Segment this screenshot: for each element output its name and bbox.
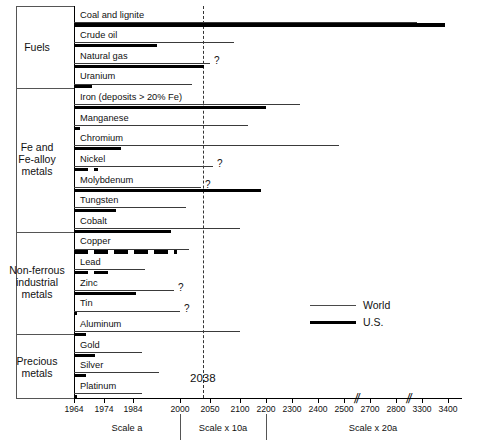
- bar-us: [74, 209, 116, 212]
- x-axis-tick-label: 2300: [282, 404, 301, 414]
- x-axis-tick: [422, 398, 423, 403]
- x-axis-tick-label: 3400: [438, 404, 457, 414]
- x-axis-tick: [448, 398, 449, 403]
- legend-swatch-world-icon: [310, 305, 356, 306]
- bar-us: [74, 189, 261, 192]
- bar-us: [74, 106, 266, 109]
- x-axis-tick: [266, 398, 267, 403]
- uncertainty-marker: ?: [214, 56, 220, 66]
- row-label: Molybdenum: [80, 175, 133, 185]
- x-axis-tick: [133, 398, 134, 403]
- row-label: Zinc: [80, 278, 98, 288]
- bar-us: [74, 250, 177, 253]
- row-label: Copper: [80, 236, 111, 246]
- x-axis-tick: [396, 398, 397, 403]
- group-label-fe-alloy-line2: Fe-alloy: [18, 153, 55, 165]
- legend-label-us: U.S.: [363, 317, 383, 328]
- row-label: Manganese: [80, 113, 129, 123]
- row-label: Iron (deposits > 20% Fe): [80, 92, 182, 102]
- x-axis-tick-label: 2050: [200, 404, 219, 414]
- row-label: Coal and lignite: [80, 10, 144, 20]
- bar-us: [74, 147, 121, 150]
- row-label: Platinum: [80, 381, 116, 391]
- x-axis-tick: [344, 398, 345, 403]
- x-axis-tick-label: 2500: [334, 404, 353, 414]
- x-axis-tick-label: 3300: [412, 404, 431, 414]
- x-axis-tick: [104, 398, 105, 403]
- bar-world: [74, 372, 159, 373]
- bar-us: [74, 292, 136, 295]
- group-label-non-ferrous-line3: metals: [22, 288, 53, 300]
- band-rule-fuels-bottom: [16, 88, 74, 89]
- bar-us: [74, 354, 95, 357]
- x-axis-tick-label: 1984: [123, 404, 142, 414]
- bar-world: [74, 125, 248, 126]
- bar-world: [74, 331, 240, 332]
- bar-us: [74, 333, 86, 336]
- chart-canvas: Fuels Fe and Fe-alloy metals Non-ferrous…: [0, 0, 480, 444]
- x-axis-tick: [370, 398, 371, 403]
- bar-world: [74, 393, 142, 394]
- band-rule-bottom: [16, 398, 74, 399]
- x-axis-tick: [318, 398, 319, 403]
- group-label-precious-line2: metals: [22, 367, 53, 379]
- row-label: Crude oil: [80, 30, 117, 40]
- row-label: Natural gas: [80, 51, 128, 61]
- group-label-fe-alloy-line1: Fe and: [21, 141, 54, 153]
- group-label-precious-metals: Precious metals: [0, 355, 74, 379]
- bar-us: [74, 85, 92, 88]
- bar-world: [74, 311, 180, 312]
- row-label: Cobalt: [80, 216, 107, 226]
- x-axis-tick-label: 2200: [256, 404, 275, 414]
- legend-label-world: World: [363, 300, 390, 311]
- bar-us: [74, 271, 113, 274]
- group-label-non-ferrous-line2: industrial: [16, 276, 58, 288]
- x-axis-tick-label: 1974: [94, 404, 113, 414]
- bar-us: [74, 127, 80, 130]
- x-axis-tick-label: 1964: [64, 404, 83, 414]
- x-axis-tick: [180, 398, 181, 403]
- group-label-non-ferrous-line1: Non-ferrous: [9, 264, 64, 276]
- x-axis-tick-label: 2100: [230, 404, 249, 414]
- legend-swatch-us-icon: [310, 321, 356, 324]
- group-label-precious-line1: Precious: [17, 355, 58, 367]
- scale-caption-a: Scale a: [111, 423, 142, 433]
- bar-us: [74, 312, 77, 315]
- reference-line-2038-label: 2038: [190, 372, 216, 384]
- group-label-fe-alloy-metals: Fe and Fe-alloy metals: [0, 141, 74, 177]
- row-label: Chromium: [80, 133, 123, 143]
- bar-us: [74, 65, 204, 68]
- x-axis-tick: [240, 398, 241, 403]
- group-label-fuels: Fuels: [0, 41, 74, 53]
- scale-divider-2: [266, 414, 267, 440]
- x-axis-tick: [210, 398, 211, 403]
- band-rule-nonferrous-bottom: [16, 334, 74, 335]
- row-label: Silver: [80, 360, 103, 370]
- row-label: Nickel: [80, 154, 105, 164]
- group-label-fe-alloy-line3: metals: [22, 165, 53, 177]
- scale-caption-x10a: Scale x 10a: [199, 423, 248, 433]
- band-left-spine: [16, 6, 17, 398]
- legend-entry-world: World: [310, 300, 390, 311]
- bar-us: [74, 374, 86, 377]
- bar-us: [74, 44, 157, 47]
- scale-caption-x20a: Scale x 20a: [349, 423, 398, 433]
- uncertainty-marker: ?: [184, 304, 190, 314]
- row-label: Lead: [80, 257, 101, 267]
- bar-us: [74, 23, 445, 26]
- x-axis-tick-label: 2000: [170, 404, 189, 414]
- legend-entry-us: U.S.: [310, 317, 383, 328]
- x-axis-tick-label: 2400: [308, 404, 327, 414]
- row-label: Tungsten: [80, 195, 118, 205]
- x-axis-tick: [292, 398, 293, 403]
- x-axis-tick-label: 2700: [360, 404, 379, 414]
- row-label: Aluminum: [80, 319, 121, 329]
- bar-us: [74, 230, 171, 233]
- band-rule-top: [16, 6, 74, 7]
- row-label: Uranium: [80, 71, 115, 81]
- bar-us: [74, 168, 98, 171]
- uncertainty-marker: ?: [217, 159, 223, 169]
- scale-divider-1: [180, 414, 181, 440]
- x-axis-tick-label: 2800: [386, 404, 405, 414]
- group-label-non-ferrous-metals: Non-ferrous industrial metals: [0, 264, 74, 300]
